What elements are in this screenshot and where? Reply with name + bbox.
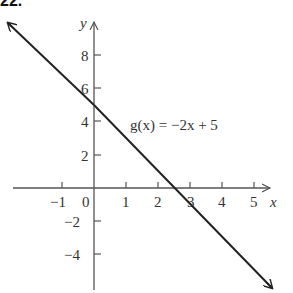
problem-label: 22. xyxy=(0,0,22,9)
svg-text:4: 4 xyxy=(81,114,89,130)
svg-text:5: 5 xyxy=(250,194,258,210)
x-axis-label: x xyxy=(269,194,277,210)
svg-text:2: 2 xyxy=(81,148,89,164)
function-graph: 22. −1 0 1 2 3 4 5 x −4 −2 2 4 6 8 xyxy=(0,0,293,293)
svg-text:−2: −2 xyxy=(64,214,80,230)
svg-text:1: 1 xyxy=(122,194,130,210)
y-ticks xyxy=(94,55,101,254)
x-tick-labels: −1 0 1 2 3 4 5 xyxy=(50,194,258,210)
equation-label: g(x) = −2x + 5 xyxy=(130,117,218,134)
svg-text:2: 2 xyxy=(154,194,162,210)
svg-text:0: 0 xyxy=(82,194,90,210)
x-ticks xyxy=(62,182,254,188)
svg-text:4: 4 xyxy=(218,194,226,210)
function-line-g xyxy=(8,23,94,105)
svg-text:8: 8 xyxy=(81,48,89,64)
svg-text:−1: −1 xyxy=(50,194,66,210)
y-axis-label: y xyxy=(78,15,87,31)
svg-text:−4: −4 xyxy=(64,247,80,263)
